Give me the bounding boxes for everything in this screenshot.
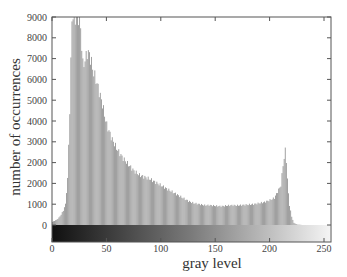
grayscale-colorbar (52, 225, 330, 242)
histogram-bar (59, 217, 60, 225)
histogram-bar (246, 204, 247, 225)
histogram-bar (131, 171, 132, 225)
histogram-bar (147, 180, 148, 225)
histogram-bar (181, 198, 182, 225)
histogram-bar (114, 146, 115, 225)
y-tick-label: 5000 (27, 95, 47, 106)
histogram-bar (272, 199, 273, 225)
histogram-bar (67, 178, 68, 225)
histogram-bar (71, 57, 72, 225)
histogram-bar (122, 156, 123, 225)
histogram-bar (289, 206, 290, 225)
histogram-bar (175, 193, 176, 225)
histogram-bar (172, 190, 173, 225)
histogram-bar (296, 224, 297, 225)
histogram-bar (178, 195, 179, 225)
histogram-bar (215, 206, 216, 225)
histogram-bar (291, 217, 292, 225)
histogram-bar (104, 117, 105, 225)
y-tick-label: 0 (42, 220, 47, 231)
histogram-bar (220, 206, 221, 225)
histogram-bar (84, 67, 85, 225)
histogram-bar (65, 204, 66, 225)
histogram-bar (118, 149, 119, 225)
histogram-bar (230, 205, 231, 225)
histogram-bar (216, 205, 217, 225)
histogram-bar (66, 193, 67, 225)
histogram-bar (271, 200, 272, 225)
histogram-bar (179, 197, 180, 225)
histogram-bar (195, 204, 196, 225)
histogram-bar (94, 70, 95, 225)
histogram-bar (251, 204, 252, 225)
histogram-bar (200, 205, 201, 225)
histogram-bar (128, 166, 129, 225)
x-tick-label: 50 (101, 243, 111, 254)
histogram-bar (133, 169, 134, 225)
histogram-bar (123, 161, 124, 225)
histogram-bar (87, 59, 88, 225)
histogram-bar (55, 220, 56, 225)
histogram-bar (208, 205, 209, 225)
histogram-bar (225, 205, 226, 225)
histogram-bar (115, 143, 116, 225)
histogram-bar (287, 178, 288, 225)
histogram-bar (161, 186, 162, 225)
histogram-bar (142, 175, 143, 225)
histogram-bar (82, 58, 83, 225)
histogram-bar (53, 221, 54, 225)
histogram-bar (162, 186, 163, 225)
histogram-bar (90, 65, 91, 225)
histogram-bar (110, 132, 111, 225)
histogram-bar (100, 93, 101, 225)
histogram-bar (62, 212, 63, 225)
histogram-bar (91, 57, 92, 225)
histogram-chart: 0100020002000300040005000600070008000900… (0, 0, 347, 277)
histogram-bar (136, 171, 137, 225)
histogram-bar (138, 175, 139, 225)
y-tick-label: 2000 (27, 178, 47, 189)
histogram-bar (69, 114, 70, 225)
y-tick-label: 4000 (27, 116, 47, 127)
histogram-bar (152, 182, 153, 225)
histogram-bar (98, 84, 99, 225)
histogram-bar (160, 183, 161, 225)
histogram-bar (241, 206, 242, 225)
histogram-bar (185, 200, 186, 225)
histogram-bar (180, 196, 181, 225)
histogram-bar (130, 165, 131, 225)
histogram-bar (245, 206, 246, 225)
histogram-bar (209, 206, 210, 225)
histogram-bar (213, 205, 214, 225)
histogram-bar (109, 130, 110, 225)
histogram-bar (223, 206, 224, 225)
histogram-bar (73, 19, 74, 225)
histogram-bar (260, 203, 261, 225)
histogram-bar (124, 157, 125, 225)
x-tick-label: 250 (317, 243, 332, 254)
histogram-bar (166, 188, 167, 225)
histogram-bar (258, 203, 259, 225)
histogram-bar (186, 200, 187, 225)
y-tick-label: 1000 (27, 199, 47, 210)
x-tick-label: 200 (262, 243, 277, 254)
histogram-bar (221, 207, 222, 225)
histogram-bar (176, 195, 177, 225)
histogram-bar (141, 176, 142, 225)
histogram-bar (88, 50, 89, 225)
histogram-bars (52, 17, 302, 225)
histogram-bar (283, 166, 284, 225)
histogram-bar (105, 122, 106, 225)
histogram-bar (79, 17, 80, 225)
histogram-bar (183, 198, 184, 225)
histogram-bar (188, 202, 189, 225)
histogram-bar (148, 177, 149, 225)
histogram-bar (229, 206, 230, 225)
histogram-bar (174, 193, 175, 225)
y-tick-label: 6000 (27, 74, 47, 85)
histogram-bar (234, 205, 235, 225)
histogram-bar (199, 204, 200, 225)
histogram-bar (97, 83, 98, 225)
histogram-bar (233, 206, 234, 225)
histogram-bar (280, 187, 281, 225)
